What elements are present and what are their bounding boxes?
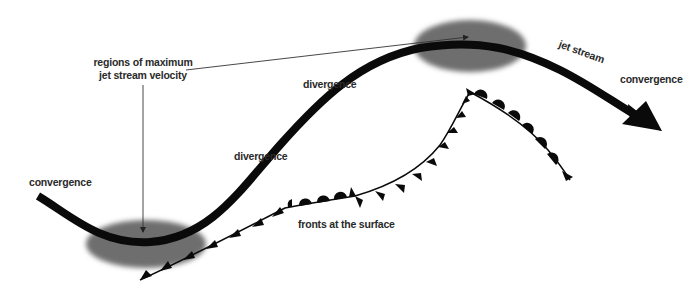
label-fronts-surface: fronts at the surface <box>298 218 395 230</box>
label-regions-line1: regions of maximum <box>93 56 192 68</box>
jet-stream-arrowhead-tip <box>622 101 662 131</box>
label-convergence-right: convergence <box>620 73 683 85</box>
label-divergence-lower: divergence <box>234 150 288 162</box>
warm-front-semicircles <box>288 187 356 207</box>
jet-stream-diagram: regions of maximum jet stream velocity c… <box>0 0 690 297</box>
warm-front-line <box>470 92 570 180</box>
label-jet-stream: jet stream <box>556 37 606 65</box>
label-convergence-left: convergence <box>29 176 92 188</box>
label-divergence-upper: divergence <box>303 78 357 90</box>
label-regions-line2: jet stream velocity <box>98 69 187 81</box>
